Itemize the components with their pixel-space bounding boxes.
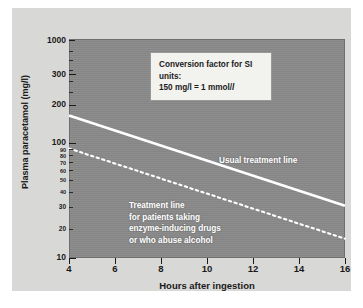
- enzyme-treatment-line-label: Treatment line for patients taking enzym…: [129, 200, 221, 246]
- enzyme-label-line-4: or who abuse alcohol: [129, 235, 221, 247]
- ytick-label-10: 10: [38, 253, 66, 261]
- ytick-mark-600: [69, 81, 73, 82]
- ytick-mark-70: [69, 162, 73, 163]
- ytick-label-60: 60: [46, 167, 66, 175]
- ytick-label-200: 200: [34, 100, 66, 108]
- ytick-mark-60: [69, 170, 73, 171]
- ytick-mark-1000: [69, 40, 75, 41]
- ytick-label-100: 100: [34, 138, 66, 146]
- ytick-label-20: 20: [46, 225, 66, 233]
- paracetamol-treatment-nomogram: 1000 300 200 100 90 80 70 60 50 40 30 20…: [0, 0, 363, 308]
- ytick-mark-300-major: [69, 74, 76, 75]
- ytick-label-50: 50: [46, 176, 66, 184]
- xtick-label-4: 4: [59, 264, 79, 274]
- ytick-mark-20: [69, 229, 73, 230]
- chart-panel: 1000 300 200 100 90 80 70 60 50 40 30 20…: [12, 8, 351, 291]
- ytick-mark-40: [69, 192, 73, 193]
- enzyme-label-line-3: enzyme-inducing drugs: [129, 223, 221, 235]
- ytick-label-40: 40: [46, 188, 66, 196]
- xtick-label-14: 14: [289, 264, 309, 274]
- ytick-mark-50: [69, 180, 73, 181]
- ytick-mark-700: [69, 70, 73, 71]
- ytick-label-300: 300: [34, 70, 66, 78]
- conversion-value: 150 mg/l = 1 mmol/: [159, 83, 232, 92]
- ytick-mark-90: [69, 149, 73, 150]
- conversion-line-2: 150 mg/l = 1 mmol/l: [159, 82, 263, 94]
- xtick-label-12: 12: [243, 264, 263, 274]
- y-axis-title: Plasma paracetamol (mg/l): [20, 47, 30, 217]
- enzyme-label-line-1: Treatment line: [129, 200, 221, 212]
- xtick-label-16: 16: [335, 264, 355, 274]
- ytick-label-30: 30: [46, 203, 66, 211]
- ytick-mark-800: [69, 60, 73, 61]
- usual-treatment-line-label: Usual treatment line: [219, 156, 297, 165]
- conversion-factor-box: Conversion factor for SI units: 150 mg/l…: [150, 52, 272, 101]
- ytick-mark-200-major: [69, 105, 76, 106]
- conversion-unit-italic: l: [232, 83, 234, 92]
- ytick-mark-500: [69, 92, 73, 93]
- ytick-mark-10-major: [69, 258, 76, 259]
- enzyme-label-line-2: for patients taking: [129, 212, 221, 224]
- xtick-label-6: 6: [105, 264, 125, 274]
- ytick-mark-80: [69, 155, 73, 156]
- usual-treatment-line: [69, 116, 345, 206]
- xtick-label-10: 10: [197, 264, 217, 274]
- ytick-mark-30: [69, 207, 73, 208]
- xtick-label-8: 8: [151, 264, 171, 274]
- x-axis-title: Hours after ingestion: [69, 280, 345, 291]
- ytick-label-70: 70: [46, 159, 66, 167]
- ytick-label-1000: 1000: [34, 36, 66, 44]
- conversion-line-1: Conversion factor for SI units:: [159, 59, 263, 82]
- ytick-mark-100-major: [69, 143, 76, 144]
- ytick-mark-900: [69, 51, 73, 52]
